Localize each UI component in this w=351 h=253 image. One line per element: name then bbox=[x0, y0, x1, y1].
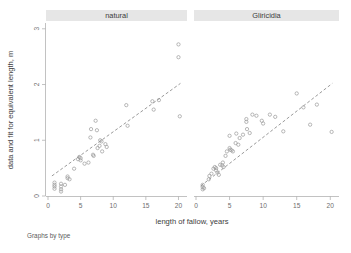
data-point bbox=[105, 145, 108, 148]
data-point bbox=[237, 143, 240, 146]
data-point bbox=[210, 172, 213, 175]
y-tick-label: 3 bbox=[33, 27, 40, 31]
data-point bbox=[53, 187, 56, 190]
data-point bbox=[248, 131, 251, 134]
data-point bbox=[330, 130, 333, 133]
data-points-gliricidia bbox=[201, 92, 333, 191]
x-axis-title: length of fallow, years bbox=[155, 217, 228, 226]
data-point bbox=[315, 103, 318, 106]
scatter-plot-svg: natural Gliricidia 0123 data and fit for… bbox=[0, 0, 351, 253]
x-tick-group-natural: 05101520 bbox=[46, 197, 182, 210]
panel-label-gliricidia: Gliricidia bbox=[252, 11, 281, 20]
data-point bbox=[53, 181, 56, 184]
y-tick-group: 0123 bbox=[33, 27, 45, 198]
data-point bbox=[89, 127, 92, 130]
data-point bbox=[225, 150, 228, 153]
x-tick-label: 10 bbox=[110, 202, 118, 209]
data-point bbox=[92, 154, 95, 157]
x-tick-label: 5 bbox=[228, 202, 232, 209]
data-point bbox=[177, 56, 180, 59]
x-tick-label: 10 bbox=[259, 202, 267, 209]
data-point bbox=[255, 114, 258, 117]
fit-line-gliricidia bbox=[201, 83, 333, 186]
panel-strips: natural Gliricidia bbox=[46, 10, 339, 21]
x-tick-label: 15 bbox=[142, 202, 150, 209]
data-point bbox=[152, 108, 155, 111]
data-point bbox=[101, 150, 104, 153]
data-point bbox=[178, 115, 181, 118]
data-point bbox=[95, 129, 98, 132]
y-tick-label: 1 bbox=[33, 138, 40, 142]
data-point bbox=[94, 119, 97, 122]
data-point bbox=[125, 104, 128, 107]
data-point bbox=[238, 136, 241, 139]
y-tick-label: 2 bbox=[33, 82, 40, 86]
panel-label-natural: natural bbox=[105, 11, 128, 20]
data-point bbox=[224, 154, 227, 157]
x-tick-group-gliricidia: 05101520 bbox=[194, 197, 334, 210]
data-point bbox=[72, 167, 75, 170]
y-axis-title: data and fit for equivalent length, m bbox=[6, 51, 15, 170]
data-point bbox=[126, 124, 129, 127]
x-tick-label: 0 bbox=[194, 202, 198, 209]
data-point bbox=[268, 113, 271, 116]
y-tick-label: 0 bbox=[33, 194, 40, 198]
data-point bbox=[87, 161, 90, 164]
data-point bbox=[245, 127, 248, 130]
data-point bbox=[235, 132, 238, 135]
x-tick-label: 20 bbox=[175, 202, 183, 209]
data-point bbox=[241, 133, 244, 136]
data-point bbox=[63, 183, 66, 186]
x-tick-label: 15 bbox=[293, 202, 301, 209]
data-point bbox=[261, 122, 264, 125]
x-tick-label: 0 bbox=[46, 202, 50, 209]
data-point bbox=[59, 190, 62, 193]
data-point bbox=[274, 115, 277, 118]
data-point bbox=[282, 130, 285, 133]
data-point bbox=[83, 162, 86, 165]
data-point bbox=[308, 123, 311, 126]
data-point bbox=[251, 113, 254, 116]
fit-line-natural bbox=[52, 83, 181, 176]
data-points-natural bbox=[53, 43, 182, 193]
data-point bbox=[228, 134, 231, 137]
x-tick-label: 20 bbox=[327, 202, 335, 209]
y-axis: 0123 data and fit for equivalent length,… bbox=[6, 23, 46, 198]
x-tick-label: 5 bbox=[79, 202, 83, 209]
chart-figure: natural Gliricidia 0123 data and fit for… bbox=[0, 0, 351, 253]
data-point bbox=[89, 136, 92, 139]
data-point bbox=[295, 92, 298, 95]
chart-caption: Graphs by type bbox=[27, 232, 71, 240]
data-point bbox=[177, 43, 180, 46]
x-axis-natural: 05101520 bbox=[46, 197, 187, 210]
data-point bbox=[98, 144, 101, 147]
x-axis-gliricidia: 05101520 bbox=[194, 197, 339, 210]
